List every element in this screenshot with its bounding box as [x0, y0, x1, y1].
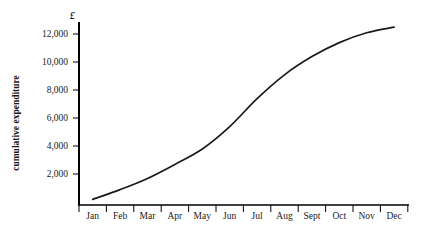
expenditure-data-line [93, 27, 394, 199]
x-axis-ticks [79, 205, 408, 212]
cumulative-expenditure-line-chart: £ cumulative expenditure 2,000 4,000 6,0… [0, 0, 439, 241]
plot-area [0, 0, 439, 241]
